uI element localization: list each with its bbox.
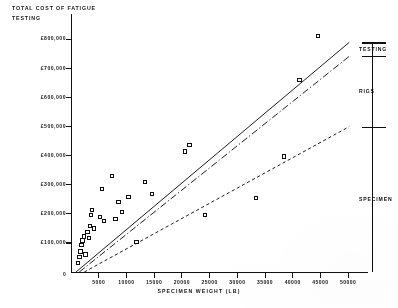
data-point-marker xyxy=(316,34,320,38)
data-point-marker xyxy=(134,240,138,244)
data-point-marker xyxy=(80,238,84,242)
bracket-label-rigs: RIGS xyxy=(359,88,375,94)
data-point-marker xyxy=(143,180,147,184)
data-point-marker xyxy=(116,200,120,204)
data-point-marker xyxy=(187,143,191,147)
data-point-marker xyxy=(110,174,114,178)
trend-line-mid-estimate xyxy=(79,56,349,272)
data-point-marker xyxy=(90,208,94,212)
trend-line-upper-bound xyxy=(76,42,349,272)
data-point-marker xyxy=(120,210,124,214)
data-point-marker xyxy=(150,192,154,196)
fatigue-testing-cost-chart: TOTAL COST OF FATIGUE TESTING 0 £100,000… xyxy=(0,0,398,308)
trend-line-lower-bound xyxy=(84,127,349,272)
data-point-marker xyxy=(78,249,82,253)
data-point-marker xyxy=(76,261,80,265)
bracket-cap xyxy=(362,127,386,128)
data-point-marker xyxy=(92,226,96,230)
bracket-label-testing: TESTING xyxy=(359,46,387,52)
x-axis-title: SPECIMEN WEIGHT (LB) xyxy=(0,288,398,294)
data-point-marker xyxy=(203,213,207,217)
data-point-marker xyxy=(297,78,301,82)
data-point-marker xyxy=(89,213,93,217)
data-point-marker xyxy=(113,217,117,221)
data-point-marker xyxy=(77,255,81,259)
data-point-marker xyxy=(183,149,187,153)
data-point-marker xyxy=(87,236,91,240)
data-point-marker xyxy=(79,243,83,247)
data-point-marker xyxy=(102,219,106,223)
bracket-label-specimen: SPECIMEN xyxy=(359,196,392,202)
bracket-cap xyxy=(362,42,386,43)
data-point-marker xyxy=(254,196,258,200)
data-point-marker xyxy=(85,230,89,234)
data-point-marker xyxy=(126,195,130,199)
data-point-marker xyxy=(82,234,86,238)
plot-lines-layer xyxy=(0,0,398,308)
data-point-marker xyxy=(100,187,104,191)
data-point-marker xyxy=(83,252,87,256)
bracket-cap xyxy=(362,56,386,57)
data-point-marker xyxy=(282,154,286,158)
